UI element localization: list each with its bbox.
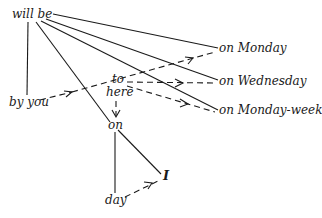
node-on: on — [108, 119, 123, 131]
node-on-monday-week: on Monday-week — [219, 104, 322, 116]
dashed-to-onmondayweek — [127, 86, 215, 112]
edge-willbe-byyou — [27, 22, 28, 95]
edge-on-I — [118, 130, 161, 174]
arrow-icon-onmondayweek — [180, 99, 188, 107]
node-by-you: by you — [9, 96, 49, 108]
dashed-to-onwednesday — [127, 82, 215, 83]
dashed-day-I — [125, 180, 160, 197]
arrow-icon-onmonday — [185, 57, 193, 64]
arrowheads — [64, 57, 193, 189]
node-will-be: will be — [12, 8, 52, 20]
edge-willbe-onmonday — [53, 14, 218, 48]
node-on-monday: on Monday — [219, 42, 287, 54]
node-here: here — [106, 86, 134, 98]
node-I: I — [163, 169, 169, 182]
node-on-wednesday: on Wednesday — [219, 75, 307, 87]
node-day: day — [105, 194, 127, 206]
node-to: to — [112, 73, 124, 85]
